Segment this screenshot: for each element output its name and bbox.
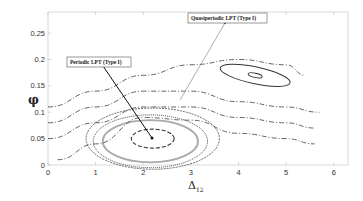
closed-orbit	[93, 115, 207, 168]
y-tick-label: 0.05	[30, 134, 45, 143]
open-trajectory	[48, 107, 315, 139]
y-tick-label: 0.15	[30, 81, 45, 90]
x-tick-label: 6	[332, 168, 336, 177]
y-tick-label: 0.1	[35, 108, 45, 117]
trajectories	[48, 59, 319, 169]
y-tick-label: 0.2	[35, 55, 45, 64]
annotation-periodic-text: Periodic LPT (Type I)	[70, 59, 122, 66]
periodic-arrow	[103, 66, 152, 138]
x-tick-label: 0	[46, 168, 50, 177]
y-tick-label: 0	[41, 161, 45, 170]
y-axis-label: φ	[28, 93, 39, 107]
x-tick-label: 1	[94, 168, 98, 177]
x-tick-label: 4	[236, 168, 240, 177]
annotation-periodic: Periodic LPT (Type I)	[67, 57, 131, 67]
annotation-quasiperiodic-text: Quasiperiodic LPT (Type I)	[191, 15, 256, 22]
open-trajectory	[58, 118, 315, 160]
closed-orbit	[103, 120, 198, 162]
x-tick-label: 5	[284, 168, 288, 177]
phase-portrait-chart: 00.050.10.150.20.25 0123456 Periodic LPT…	[0, 0, 363, 201]
quasiperiodic-arrow	[180, 23, 225, 100]
x-tick-label: 3	[189, 168, 193, 177]
x-axis-label: Δ12	[188, 179, 204, 193]
closed-orbit	[248, 72, 263, 79]
x-axis-label-main: Δ	[188, 179, 196, 192]
fixed-point-marker	[151, 137, 154, 140]
y-tick-label: 0.25	[30, 29, 45, 38]
x-axis-label-sub: 12	[196, 186, 204, 193]
annotation-quasiperiodic: Quasiperiodic LPT (Type I)	[188, 13, 267, 23]
